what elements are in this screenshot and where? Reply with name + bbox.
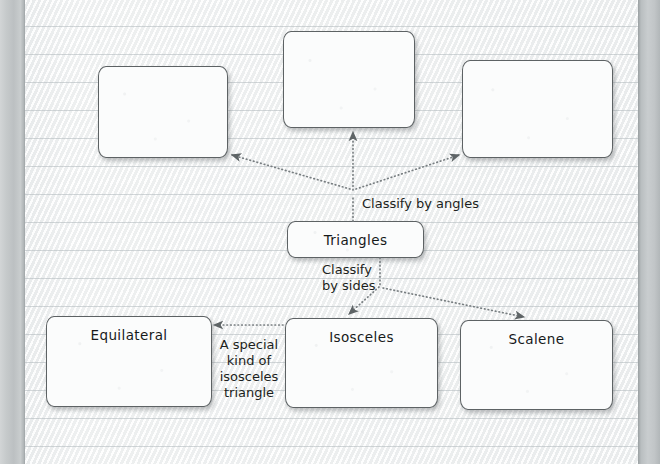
edge-label-special-kind-of-isosceles: A special kind of isosceles triangle: [212, 337, 286, 401]
angle-classification-box-1[interactable]: [98, 66, 228, 158]
angle-classification-box-3[interactable]: [462, 60, 613, 158]
root-node-triangles[interactable]: Triangles: [287, 221, 424, 258]
page-right-margin: [638, 0, 660, 464]
node-equilateral-label: Equilateral: [90, 317, 167, 343]
node-isosceles[interactable]: Isosceles: [285, 318, 438, 408]
root-node-triangles-label: Triangles: [324, 232, 388, 248]
node-isosceles-label: Isosceles: [329, 319, 394, 345]
worksheet-page: Triangles Equilateral Isosceles Scalene …: [0, 0, 660, 464]
node-equilateral[interactable]: Equilateral: [46, 316, 212, 407]
node-scalene-label: Scalene: [509, 321, 565, 347]
node-scalene[interactable]: Scalene: [460, 320, 613, 410]
angle-classification-box-2[interactable]: [283, 31, 415, 128]
edge-label-classify-by-sides: Classify by sides: [322, 262, 376, 294]
edge-label-classify-by-angles: Classify by angles: [362, 196, 479, 212]
page-left-margin: [0, 0, 25, 464]
